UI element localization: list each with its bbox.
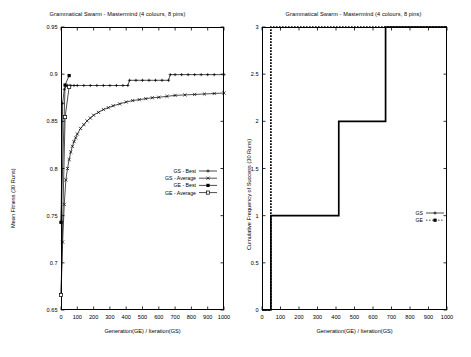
svg-text:GS - Best: GS - Best [174,168,197,174]
svg-text:0.7: 0.7 [50,260,58,266]
svg-text:0.8: 0.8 [50,166,58,172]
svg-text:300: 300 [313,314,322,320]
svg-text:0.5: 0.5 [251,260,259,266]
svg-text:0.9: 0.9 [50,71,58,77]
svg-text:0.75: 0.75 [47,213,58,219]
svg-text:100: 100 [73,314,82,320]
svg-text:0: 0 [255,307,258,313]
svg-text:3: 3 [255,24,258,30]
svg-text:GE - Average: GE - Average [165,190,196,196]
plot-svg-left: 010020030040050060070080090010000.650.70… [0,0,235,357]
svg-text:800: 800 [405,314,414,320]
svg-text:2: 2 [255,118,258,124]
svg-text:0.85: 0.85 [47,118,58,124]
svg-text:600: 600 [368,314,377,320]
svg-text:800: 800 [187,314,196,320]
chart-panel-left: Grammatical Swarm - Mastermind (4 colour… [0,0,235,357]
svg-text:1: 1 [255,213,258,219]
plot-svg-right: 0100200300400500600700800900100000.511.5… [236,0,471,357]
svg-text:500: 500 [350,314,359,320]
svg-text:GE - Best: GE - Best [174,182,197,188]
svg-text:500: 500 [138,314,147,320]
svg-text:GS - Average: GS - Average [165,175,196,181]
svg-text:100: 100 [276,314,285,320]
svg-text:GS: GS [416,210,424,216]
svg-text:400: 400 [122,314,131,320]
svg-text:0: 0 [260,314,263,320]
svg-text:1.5: 1.5 [251,166,259,172]
svg-text:0.95: 0.95 [47,24,58,30]
svg-text:GE: GE [416,217,424,223]
chart-panel-right: Grammatical Swarm - Mastermind (4 colour… [236,0,471,357]
svg-text:0.65: 0.65 [47,307,58,313]
svg-text:700: 700 [170,314,179,320]
svg-text:400: 400 [331,314,340,320]
figure-canvas: Grammatical Swarm - Mastermind (4 colour… [0,0,471,357]
svg-text:0: 0 [59,314,62,320]
svg-text:2.5: 2.5 [251,71,259,77]
svg-text:700: 700 [387,314,396,320]
svg-text:600: 600 [154,314,163,320]
svg-text:1000: 1000 [218,314,230,320]
svg-text:300: 300 [105,314,114,320]
svg-text:200: 200 [294,314,303,320]
svg-text:900: 900 [203,314,212,320]
svg-text:1000: 1000 [441,314,453,320]
svg-text:900: 900 [424,314,433,320]
svg-text:200: 200 [89,314,98,320]
